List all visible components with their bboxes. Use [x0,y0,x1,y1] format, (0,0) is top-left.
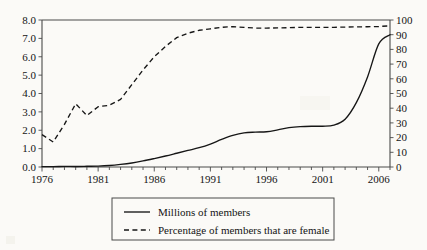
x-axis-tick-label: 2006 [368,173,391,185]
right-axis-tick-label: 20 [396,131,408,143]
right-axis-tick-label: 10 [396,146,408,158]
data-series [42,26,390,167]
x-axis-tick-label: 1991 [199,173,221,185]
left-axis-tick-label: 2.0 [22,124,36,136]
right-axis-tick-label: 40 [396,102,408,114]
right-axis-tick-label: 0 [396,161,402,173]
x-axis-tick-label: 1986 [143,173,166,185]
left-axis-tick-label: 4.0 [22,87,36,99]
series-line-solid [42,35,390,167]
x-axis: 1976198119861991199620012006 [31,167,390,185]
right-axis-tick-label: 30 [396,117,408,129]
x-axis-tick-label: 2001 [312,173,334,185]
legend-item-label: Percentage of members that are female [158,224,329,236]
right-axis-tick-label: 90 [396,29,408,41]
right-axis-tick-label: 100 [396,14,413,26]
left-axis-tick-label: 0.0 [22,161,36,173]
left-axis-tick-label: 6.0 [22,51,36,63]
right-axis-tick-label: 80 [396,43,408,55]
x-axis-tick-label: 1981 [87,173,109,185]
chart-legend: Millions of membersPercentage of members… [112,198,334,240]
left-axis-tick-label: 5.0 [22,69,36,81]
x-axis-tick-label: 1996 [256,173,279,185]
line-chart: 0.01.02.03.04.05.06.07.08.0 010203040506… [0,0,427,250]
chart-figure: 0.01.02.03.04.05.06.07.08.0 010203040506… [0,0,427,250]
x-axis-tick-label: 1976 [31,173,54,185]
right-axis-tick-label: 60 [396,73,408,85]
legend-item-label: Millions of members [158,206,250,218]
series-line-dashed [42,26,390,142]
right-axis-tick-label: 70 [396,58,408,70]
right-axis: 0102030405060708090100 [390,14,413,173]
left-axis-tick-label: 8.0 [22,14,36,26]
left-axis-tick-label: 1.0 [22,142,36,154]
left-axis-tick-label: 7.0 [22,32,36,44]
left-axis: 0.01.02.03.04.05.06.07.08.0 [22,14,42,173]
left-axis-tick-label: 3.0 [22,106,36,118]
right-axis-tick-label: 50 [396,87,408,99]
